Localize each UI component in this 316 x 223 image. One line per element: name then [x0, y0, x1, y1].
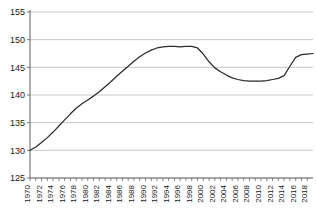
y-axis-tick-label: 125 [10, 173, 25, 183]
x-axis-tick-label: 1996 [173, 184, 182, 202]
x-axis-tick-label: 2012 [266, 184, 275, 202]
x-axis-tick-label: 1970 [23, 184, 32, 202]
x-axis-tick-label: 1982 [92, 184, 101, 202]
x-axis-group: 1970197219741976197819801982198419861988… [23, 178, 313, 203]
x-axis-tick-label: 1986 [115, 184, 124, 202]
y-axis-tick-label: 135 [10, 118, 25, 128]
x-axis-tick-label: 1976 [58, 184, 67, 202]
x-axis-tick-label: 1992 [150, 184, 159, 202]
data-series-group [30, 46, 313, 150]
y-axis-tick-label: 140 [10, 90, 25, 100]
y-axis-tick-label: 145 [10, 63, 25, 73]
x-axis-tick-label: 1990 [139, 184, 148, 202]
x-axis-tick-label: 1974 [46, 184, 55, 202]
x-axis-tick-label: 2004 [219, 184, 228, 202]
x-axis-tick-label: 1978 [69, 184, 78, 202]
x-axis-tick-label: 1994 [162, 184, 171, 202]
line-chart: 155150145140135130125 197019721974197619… [0, 0, 316, 223]
x-axis-tick-label: 1998 [185, 184, 194, 202]
x-axis-tick-label: 2014 [277, 184, 286, 202]
x-axis-tick-label: 1988 [127, 184, 136, 202]
y-axis-group: 155150145140135130125 [10, 7, 30, 183]
x-axis-tick-label: 1984 [104, 184, 113, 202]
x-axis-tick-label: 2000 [196, 184, 205, 202]
y-axis-tick-label: 130 [10, 146, 25, 156]
x-axis-tick-label: 1972 [35, 184, 44, 202]
gridlines-group [30, 12, 313, 178]
x-axis-tick-label: 2016 [289, 184, 298, 202]
x-axis-tick-label: 2002 [208, 184, 217, 202]
x-axis-tick-label: 2006 [231, 184, 240, 202]
x-axis-tick-label: 1980 [81, 184, 90, 202]
x-axis-tick-label: 2010 [254, 184, 263, 202]
data-line-series-1 [30, 46, 313, 150]
chart-canvas: 155150145140135130125 197019721974197619… [0, 0, 316, 223]
x-axis-tick-label: 2018 [300, 184, 309, 202]
y-axis-tick-label: 150 [10, 35, 25, 45]
y-axis-tick-label: 155 [10, 7, 25, 17]
x-axis-tick-label: 2008 [242, 184, 251, 202]
